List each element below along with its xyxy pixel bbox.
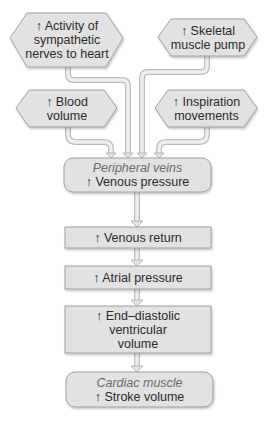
label-cardiac: Cardiac muscle ↑ Stroke volume: [66, 372, 213, 407]
label-skeletal: ↑ Skeletal muscle pump: [160, 19, 256, 56]
text-line: ↑ Venous pressure: [86, 175, 190, 189]
text-line: ↑ Skeletal: [181, 24, 235, 38]
label-blood: ↑ Blood volume: [18, 90, 116, 127]
text-line: ↑ Blood: [46, 95, 88, 109]
text-line: volume: [118, 337, 158, 351]
text-line: ↑ Stroke volume: [95, 390, 185, 404]
text-line: ↑ Inspiration: [173, 95, 240, 109]
text-line: muscle pump: [171, 38, 245, 52]
text-line: ↑ Activity of: [36, 19, 99, 33]
label-peripheral: Peripheral veins ↑ Venous pressure: [64, 158, 211, 192]
text-line: ventricular: [109, 323, 167, 337]
text-line: ↑ Atrial pressure: [93, 271, 183, 285]
text-line: movements: [174, 109, 239, 123]
text-line: sympathetic: [34, 33, 101, 47]
text-line: ↑ Venous return: [94, 231, 182, 245]
label-venous-return: ↑ Venous return: [65, 227, 211, 248]
label-sympathetic: ↑ Activity of sympathetic nerves to hear…: [14, 14, 120, 66]
label-atrial: ↑ Atrial pressure: [65, 266, 211, 289]
text-line: ↑ End–diastolic: [96, 309, 180, 323]
site-label: Peripheral veins: [93, 161, 183, 175]
text-line: nerves to heart: [25, 47, 108, 61]
label-inspiration: ↑ Inspiration movements: [157, 90, 256, 127]
text-line: volume: [47, 109, 87, 123]
label-edv: ↑ End–diastolic ventricular volume: [65, 306, 211, 353]
site-label: Cardiac muscle: [96, 376, 182, 390]
